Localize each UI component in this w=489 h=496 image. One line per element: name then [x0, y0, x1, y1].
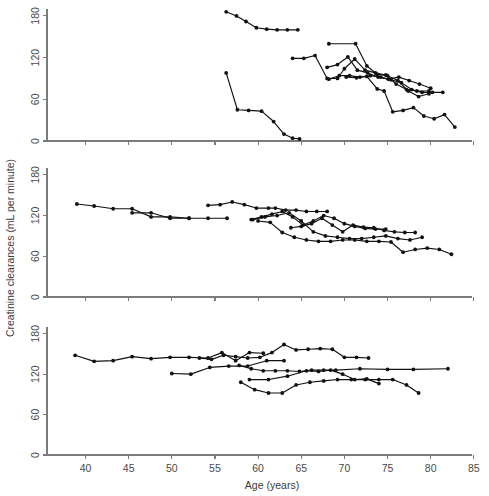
data-point-marker [235, 108, 239, 112]
series-subject-18 [237, 364, 450, 374]
data-point-marker [413, 248, 417, 252]
data-point-marker [222, 353, 226, 357]
data-point-marker [406, 89, 410, 93]
data-point-marker [341, 238, 345, 242]
data-point-marker [354, 42, 358, 46]
series-polyline [327, 57, 431, 88]
x-tick-label: 70 [339, 462, 351, 474]
data-point-marker [249, 367, 253, 371]
series-subject-10 [206, 200, 329, 213]
data-point-marker [317, 239, 321, 243]
x-tick-label: 55 [209, 462, 221, 474]
data-point-marker [291, 56, 295, 60]
data-point-marker [198, 356, 202, 360]
data-point-marker [275, 214, 279, 218]
data-point-marker [377, 382, 381, 386]
data-point-marker [418, 82, 422, 86]
data-point-marker [287, 211, 291, 215]
data-point-marker [261, 369, 265, 373]
series-subject-20 [239, 378, 421, 395]
series-polyline [226, 73, 299, 139]
x-tick-label: 80 [425, 462, 437, 474]
data-point-marker [391, 110, 395, 114]
data-point-marker [75, 202, 79, 206]
data-point-marker [305, 369, 309, 373]
data-point-marker [235, 14, 239, 18]
data-point-marker [313, 54, 317, 58]
panels-group: 060120180060120180060120180 [29, 7, 474, 459]
data-point-marker [363, 378, 367, 382]
data-point-marker [420, 235, 424, 239]
data-point-marker [306, 347, 310, 351]
data-point-marker [361, 225, 365, 229]
data-point-marker [302, 56, 306, 60]
data-point-marker [286, 374, 290, 378]
x-tick-label: 40 [80, 462, 92, 474]
data-point-marker [341, 372, 345, 376]
data-point-marker [393, 230, 397, 234]
data-point-marker [397, 75, 401, 79]
data-point-marker [280, 210, 284, 214]
data-point-marker [360, 237, 364, 241]
x-tick-label: 65 [295, 462, 307, 474]
data-point-marker [286, 369, 290, 373]
data-point-marker [344, 75, 348, 79]
data-point-marker [225, 216, 229, 220]
data-point-marker [353, 238, 357, 242]
data-point-marker [149, 211, 153, 215]
y-tick-label: 60 [29, 409, 41, 421]
data-point-marker [343, 67, 347, 71]
data-point-marker [367, 356, 371, 360]
series-subject-3-mid [291, 54, 431, 93]
chart-canvas: Creatinine clearances (mL per minute) 06… [0, 0, 489, 496]
data-point-marker [282, 343, 286, 347]
data-point-marker [349, 378, 353, 382]
x-tick-label: 60 [252, 462, 264, 474]
data-point-marker [310, 222, 314, 226]
data-point-marker [366, 71, 370, 75]
data-point-marker [292, 235, 296, 239]
x-tick-label: 75 [382, 462, 394, 474]
data-point-marker [327, 42, 331, 46]
data-point-marker [389, 78, 393, 82]
data-point-marker [305, 210, 309, 214]
data-point-marker [315, 210, 319, 214]
data-point-marker [386, 74, 390, 78]
data-point-marker [168, 216, 172, 220]
data-point-marker [437, 248, 441, 252]
data-point-marker [237, 364, 241, 368]
data-point-marker [341, 230, 345, 234]
data-point-marker [267, 206, 271, 210]
data-point-marker [130, 211, 134, 215]
data-point-marker [413, 231, 417, 235]
data-point-marker [294, 208, 298, 212]
data-point-marker [253, 388, 257, 392]
x-tick-label: 50 [166, 462, 178, 474]
data-point-marker [291, 136, 295, 140]
data-point-marker [187, 216, 191, 220]
data-point-marker [453, 125, 457, 129]
data-point-marker [346, 55, 350, 59]
data-point-marker [251, 218, 255, 222]
data-point-marker [282, 132, 286, 136]
data-point-marker [239, 380, 243, 384]
data-point-marker [224, 71, 228, 75]
y-tick-label: 60 [29, 250, 41, 262]
data-point-marker [372, 235, 376, 239]
data-point-marker [353, 57, 357, 61]
data-point-marker [206, 216, 210, 220]
data-point-marker [336, 378, 340, 382]
data-point-marker [337, 74, 341, 78]
data-point-marker [401, 109, 405, 113]
data-point-marker [248, 378, 252, 382]
data-point-marker [284, 208, 288, 212]
data-point-marker [412, 106, 416, 110]
data-point-marker [382, 229, 386, 233]
data-point-marker [432, 117, 436, 121]
data-point-marker [210, 357, 214, 361]
data-point-marker [386, 368, 390, 372]
data-point-marker [365, 239, 369, 243]
data-point-marker [247, 109, 251, 113]
data-point-marker [267, 391, 271, 395]
data-point-marker [401, 250, 405, 254]
